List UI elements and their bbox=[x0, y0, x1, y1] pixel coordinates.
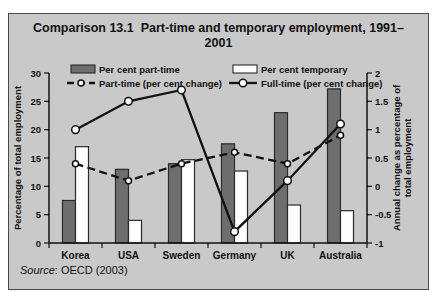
source-label: Source bbox=[20, 264, 55, 276]
legend-label-part-time: Per cent part-time bbox=[99, 64, 180, 75]
source-line: Source: OECD (2003) bbox=[20, 264, 128, 276]
marker-solid-uk bbox=[284, 177, 292, 185]
legend-label-part-time-change: Part-time (per cent change) bbox=[99, 78, 222, 89]
left-axis-tick-label: 30 bbox=[30, 68, 41, 79]
right-axis-title-line1: Annual change as percentage of bbox=[391, 84, 402, 231]
right-axis-tick-label: -1 bbox=[375, 238, 384, 249]
category-label-sweden: Sweden bbox=[163, 250, 201, 261]
bar-temporary-australia bbox=[341, 211, 354, 243]
marker-dashed-germany bbox=[232, 149, 238, 155]
right-axis-tick-label: 1.5 bbox=[375, 96, 389, 107]
left-axis-tick-label: 20 bbox=[30, 124, 41, 135]
category-label-germany: Germany bbox=[213, 250, 257, 261]
legend-swatch-temporary bbox=[233, 65, 257, 73]
figure-title-line2: 2001 bbox=[9, 36, 428, 51]
category-label-uk: UK bbox=[280, 250, 295, 261]
marker-solid-germany bbox=[231, 228, 239, 236]
right-axis-tick-label: -0.5 bbox=[375, 209, 392, 220]
category-label-korea: Korea bbox=[61, 250, 90, 261]
marker-solid-australia bbox=[337, 120, 345, 128]
marker-dashed-uk bbox=[285, 161, 291, 167]
page: Comparison 13.1 Part-time and temporary … bbox=[0, 0, 436, 292]
bar-part-time-korea bbox=[63, 201, 76, 244]
source-text: : OECD (2003) bbox=[55, 264, 128, 276]
left-axis-tick-label: 25 bbox=[30, 96, 41, 107]
marker-dashed-usa bbox=[126, 178, 132, 184]
right-axis-tick-label: 0.5 bbox=[375, 153, 389, 164]
left-axis-title: Percentage of total employment bbox=[12, 85, 23, 230]
left-axis-tick-label: 15 bbox=[30, 153, 41, 164]
chart-svg: 051015202530-1-0.500.511.52KoreaUSASwede… bbox=[11, 60, 427, 262]
legend-swatch-part-time bbox=[71, 65, 95, 73]
legend-label-temporary: Per cent temporary bbox=[261, 64, 348, 75]
right-axis-title-line2: total employment bbox=[402, 118, 413, 197]
marker-dashed-australia bbox=[338, 132, 344, 138]
legend-label-full-time-change: Full-time (per cent change) bbox=[261, 78, 382, 89]
category-label-usa: USA bbox=[118, 250, 139, 261]
marker-solid-usa bbox=[125, 98, 133, 106]
figure-title-line1: Comparison 13.1 Part-time and temporary … bbox=[9, 21, 428, 36]
bar-temporary-sweden bbox=[182, 160, 195, 243]
bar-temporary-uk bbox=[288, 205, 301, 243]
marker-dashed-korea bbox=[73, 161, 79, 167]
legend-marker-full-time-change bbox=[239, 79, 247, 87]
bar-part-time-sweden bbox=[169, 164, 182, 243]
bar-part-time-australia bbox=[328, 89, 341, 243]
figure-box: Comparison 13.1 Part-time and temporary … bbox=[8, 13, 429, 290]
legend-marker-part-time-change bbox=[78, 80, 84, 86]
category-label-australia: Australia bbox=[319, 250, 362, 261]
figure-title: Comparison 13.1 Part-time and temporary … bbox=[9, 21, 428, 51]
marker-solid-korea bbox=[72, 126, 80, 134]
left-axis-tick-label: 10 bbox=[30, 181, 41, 192]
left-axis-tick-label: 0 bbox=[36, 238, 41, 249]
right-axis-tick-label: 1 bbox=[375, 124, 381, 135]
marker-dashed-sweden bbox=[179, 161, 185, 167]
bar-temporary-usa bbox=[129, 220, 142, 243]
left-axis-tick-label: 5 bbox=[36, 209, 42, 220]
right-axis-tick-label: 0 bbox=[375, 181, 380, 192]
